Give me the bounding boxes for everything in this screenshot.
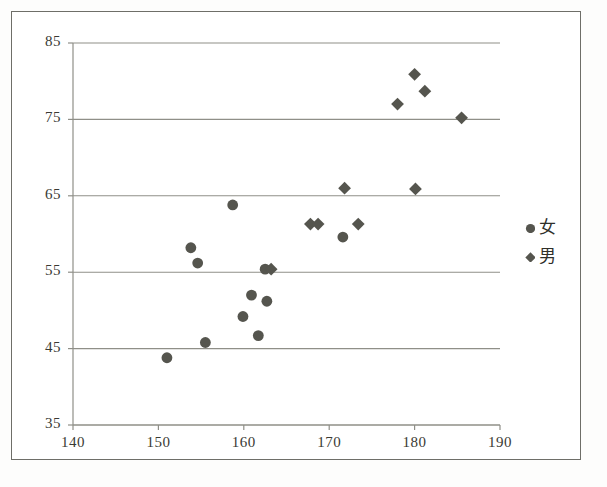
tick-marks-group xyxy=(68,43,500,430)
data-point-male-4[interactable] xyxy=(352,218,365,231)
legend-label: 男 xyxy=(539,248,556,265)
x-tick-label-170: 170 xyxy=(306,434,352,451)
data-points-group xyxy=(162,68,468,363)
data-point-female-3[interactable] xyxy=(200,337,211,348)
data-point-female-7[interactable] xyxy=(253,330,264,341)
y-tick-label-55: 55 xyxy=(21,262,61,279)
x-tick-label-180: 180 xyxy=(392,434,438,451)
data-point-female-5[interactable] xyxy=(238,311,249,322)
data-point-female-8[interactable] xyxy=(261,296,272,307)
data-point-female-2[interactable] xyxy=(192,258,203,269)
y-tick-label-45: 45 xyxy=(21,339,61,356)
data-point-female-4[interactable] xyxy=(227,200,238,211)
legend-item-male[interactable]: 男 xyxy=(524,248,556,265)
x-tick-label-150: 150 xyxy=(135,434,181,451)
legend-circle-icon xyxy=(524,222,535,233)
data-point-female-10[interactable] xyxy=(337,232,348,243)
chart-figure: 354555657585 140150160170180190 女男 xyxy=(0,0,607,487)
data-point-male-2[interactable] xyxy=(312,218,325,231)
x-tick-label-190: 190 xyxy=(477,434,523,451)
data-point-male-8[interactable] xyxy=(409,183,422,196)
legend-label: 女 xyxy=(539,219,556,236)
data-point-male-3[interactable] xyxy=(338,182,351,195)
chart-frame: 354555657585 140150160170180190 女男 xyxy=(11,11,581,460)
y-tick-label-65: 65 xyxy=(21,186,61,203)
legend-diamond-shape xyxy=(525,252,535,262)
data-point-female-1[interactable] xyxy=(185,242,196,253)
legend-circle-shape xyxy=(526,224,535,233)
legend-diamond-icon xyxy=(524,251,535,262)
data-point-female-0[interactable] xyxy=(162,352,173,363)
data-point-male-7[interactable] xyxy=(418,85,431,98)
data-point-male-9[interactable] xyxy=(455,111,468,124)
data-point-male-6[interactable] xyxy=(408,68,421,81)
y-tick-label-35: 35 xyxy=(21,415,61,432)
data-point-male-5[interactable] xyxy=(391,98,404,111)
gridlines-group xyxy=(73,43,500,425)
scatter-plot-canvas[interactable] xyxy=(12,12,579,458)
data-point-female-6[interactable] xyxy=(246,290,257,301)
legend-item-female[interactable]: 女 xyxy=(524,219,556,236)
x-tick-label-160: 160 xyxy=(221,434,267,451)
axis-lines-group xyxy=(73,43,500,425)
x-tick-label-140: 140 xyxy=(50,434,96,451)
y-tick-label-75: 75 xyxy=(21,109,61,126)
y-tick-label-85: 85 xyxy=(21,33,61,50)
